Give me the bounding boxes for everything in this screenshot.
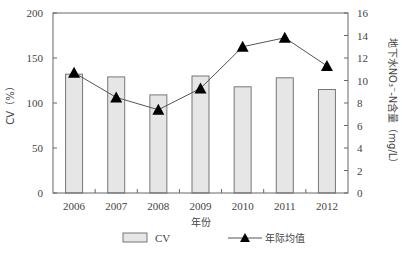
y2-axis-title: 地下水NO₃⁻-N含量（mg/L） bbox=[387, 38, 399, 169]
bar-2012 bbox=[318, 90, 335, 194]
y2-tick-label: 10 bbox=[357, 75, 369, 87]
y-tick-label: 50 bbox=[32, 142, 44, 154]
triangle-marker-icon bbox=[321, 60, 333, 71]
triangle-marker-icon bbox=[279, 32, 291, 43]
y2-tick-label: 12 bbox=[357, 52, 368, 64]
bar-2009 bbox=[192, 76, 209, 193]
legend: CV 年际均值 bbox=[123, 232, 305, 244]
bar-2010 bbox=[234, 87, 251, 193]
y-tick-label: 100 bbox=[27, 97, 44, 109]
y-axis-right: 0246810121416 bbox=[344, 7, 369, 199]
legend-bar-label: CV bbox=[155, 232, 170, 244]
x-tick-label: 2011 bbox=[274, 200, 296, 212]
y2-tick-label: 2 bbox=[357, 165, 363, 177]
y2-tick-label: 0 bbox=[357, 187, 363, 199]
y2-tick-label: 6 bbox=[357, 120, 363, 132]
chart: 050100150200 0246810121416 2006200720082… bbox=[0, 0, 402, 256]
y2-tick-label: 14 bbox=[357, 30, 369, 42]
y2-tick-label: 8 bbox=[357, 97, 363, 109]
x-tick-label: 2007 bbox=[105, 200, 128, 212]
bar-2011 bbox=[276, 78, 293, 193]
bar-2006 bbox=[66, 74, 83, 193]
x-tick-label: 2008 bbox=[147, 200, 170, 212]
x-tick-label: 2006 bbox=[63, 200, 86, 212]
y-tick-label: 150 bbox=[27, 52, 44, 64]
triangle-marker-icon bbox=[68, 67, 80, 78]
y-axis-title: CV（%） bbox=[5, 81, 16, 124]
legend-bar-swatch bbox=[123, 233, 147, 242]
x-tick-label: 2009 bbox=[190, 200, 213, 212]
x-axis-title: 年份 bbox=[191, 216, 211, 228]
y-tick-label: 0 bbox=[38, 187, 44, 199]
y-tick-label: 200 bbox=[27, 7, 44, 19]
y2-tick-label: 16 bbox=[357, 7, 369, 19]
legend-line-label: 年际均值 bbox=[265, 232, 305, 244]
x-tick-label: 2010 bbox=[232, 200, 255, 212]
x-tick-label: 2012 bbox=[316, 200, 338, 212]
y2-tick-label: 4 bbox=[357, 142, 363, 154]
y-axis-left: 050100150200 bbox=[27, 7, 58, 199]
